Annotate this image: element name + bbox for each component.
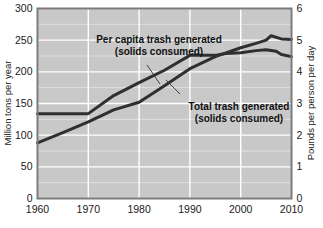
y-axis-left-title: Million tons per year bbox=[2, 60, 13, 145]
y-axis-right-tick: 4 bbox=[297, 65, 303, 77]
y-axis-right-title: Pounds per person per day bbox=[305, 45, 316, 160]
x-axis-tick: 1960 bbox=[26, 203, 50, 215]
y-axis-right-tick: 3 bbox=[297, 97, 303, 109]
chart-figure: Per capita trash generated (solids consu… bbox=[0, 0, 323, 228]
x-axis-tick: 2010 bbox=[280, 203, 304, 215]
annotation-total-line2: (solids consumed) bbox=[195, 113, 283, 124]
y-axis-right-tick: 1 bbox=[297, 160, 303, 172]
x-axis-tick: 2000 bbox=[229, 203, 253, 215]
y-axis-left-tick: 100 bbox=[15, 129, 33, 141]
y-axis-left-tick: 150 bbox=[15, 97, 33, 109]
y-axis-right-tick: 5 bbox=[297, 34, 303, 46]
x-axis-tick: 1980 bbox=[127, 203, 151, 215]
y-axis-right-tick: 6 bbox=[297, 2, 303, 14]
annotation-total-line1: Total trash generated bbox=[189, 101, 290, 112]
trash-generation-line-chart: Per capita trash generated (solids consu… bbox=[0, 0, 323, 228]
y-axis-right-tick: 2 bbox=[297, 129, 303, 141]
y-axis-left-tick: 300 bbox=[15, 2, 33, 14]
annotation-per-capita-line2: (solids consumed) bbox=[115, 46, 203, 57]
y-axis-left-tick: 200 bbox=[15, 65, 33, 77]
x-axis-tick: 1990 bbox=[178, 203, 202, 215]
y-axis-left-tick: 50 bbox=[21, 160, 33, 172]
x-axis-tick: 1970 bbox=[77, 203, 101, 215]
y-axis-left-tick: 250 bbox=[15, 34, 33, 46]
annotation-per-capita-line1: Per capita trash generated bbox=[96, 34, 222, 45]
